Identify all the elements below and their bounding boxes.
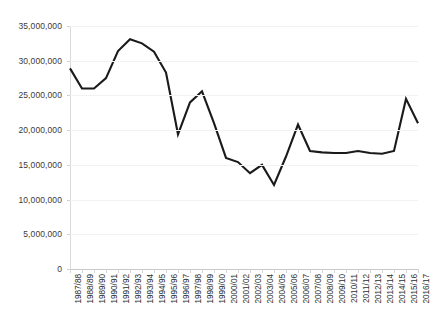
x-tick-label: 2003/04 xyxy=(266,274,275,304)
x-tick-mark xyxy=(130,269,131,273)
x-tick-mark xyxy=(214,269,215,273)
gridline xyxy=(70,95,418,96)
x-tick-label: 2015/16 xyxy=(410,274,419,304)
x-tick-label: 2013/14 xyxy=(386,274,395,304)
line-chart: 05,000,00010,000,00015,000,00020,000,000… xyxy=(0,0,434,331)
x-tick-label: 1999/00 xyxy=(218,274,227,304)
y-axis: 05,000,00010,000,00015,000,00020,000,000… xyxy=(0,0,66,331)
y-tick-label: 10,000,000 xyxy=(18,195,62,205)
y-tick-label: 0 xyxy=(57,264,62,274)
gridline xyxy=(70,165,418,166)
x-tick-mark xyxy=(262,269,263,273)
x-tick-label: 2005/06 xyxy=(290,274,299,304)
x-tick-mark xyxy=(106,269,107,273)
y-tick-mark xyxy=(67,165,70,166)
x-tick-label: 1992/93 xyxy=(134,274,143,304)
x-tick-label: 2000/01 xyxy=(230,274,239,304)
x-tick-label: 1993/94 xyxy=(146,274,155,304)
x-tick-label: 2010/11 xyxy=(350,274,359,303)
y-tick-mark xyxy=(67,200,70,201)
x-tick-label: 1988/89 xyxy=(86,274,95,304)
y-tick-mark xyxy=(67,130,70,131)
y-tick-mark xyxy=(67,26,70,27)
x-tick-label: 1989/90 xyxy=(98,274,107,304)
x-tick-mark xyxy=(82,269,83,273)
x-tick-label: 1996/97 xyxy=(182,274,191,304)
x-tick-mark xyxy=(166,269,167,273)
x-tick-mark xyxy=(370,269,371,273)
y-tick-mark xyxy=(67,95,70,96)
x-tick-mark xyxy=(226,269,227,273)
y-tick-mark xyxy=(67,61,70,62)
gridline xyxy=(70,200,418,201)
x-tick-label: 2011/12 xyxy=(362,274,371,303)
x-tick-mark xyxy=(250,269,251,273)
x-tick-mark xyxy=(70,269,71,273)
x-tick-mark xyxy=(418,269,419,273)
gridline xyxy=(70,130,418,131)
x-tick-mark xyxy=(406,269,407,273)
x-tick-label: 2004/05 xyxy=(278,274,287,304)
y-tick-label: 25,000,000 xyxy=(18,90,62,100)
x-tick-mark xyxy=(346,269,347,273)
x-tick-mark xyxy=(142,269,143,273)
series-line-svg xyxy=(70,26,418,269)
x-tick-mark xyxy=(238,269,239,273)
x-tick-mark xyxy=(286,269,287,273)
x-tick-label: 1994/95 xyxy=(158,274,167,304)
x-axis-line xyxy=(70,269,419,270)
x-tick-label: 1998/99 xyxy=(206,274,215,304)
x-tick-label: 2002/03 xyxy=(254,274,263,304)
x-tick-label: 1997/98 xyxy=(194,274,203,304)
x-tick-label: 2001/02 xyxy=(242,274,251,304)
x-tick-mark xyxy=(358,269,359,273)
gridline xyxy=(70,26,418,27)
y-tick-label: 20,000,000 xyxy=(18,125,62,135)
x-tick-mark xyxy=(394,269,395,273)
x-tick-label: 2016/17 xyxy=(422,274,431,304)
x-tick-label: 2014/15 xyxy=(398,274,407,304)
y-tick-label: 5,000,000 xyxy=(23,229,62,239)
gridline xyxy=(70,234,418,235)
x-tick-mark xyxy=(274,269,275,273)
x-tick-label: 1995/96 xyxy=(170,274,179,304)
y-tick-mark xyxy=(67,234,70,235)
x-axis: 1987/881988/891989/901990/911991/921992/… xyxy=(70,274,422,331)
x-tick-label: 1987/88 xyxy=(74,274,83,304)
y-tick-label: 35,000,000 xyxy=(18,21,62,31)
x-tick-mark xyxy=(118,269,119,273)
x-tick-mark xyxy=(334,269,335,273)
x-tick-mark xyxy=(94,269,95,273)
x-tick-mark xyxy=(178,269,179,273)
x-tick-label: 2007/08 xyxy=(314,274,323,304)
x-tick-mark xyxy=(298,269,299,273)
gridline xyxy=(70,61,418,62)
y-tick-label: 30,000,000 xyxy=(18,56,62,66)
x-tick-label: 2006/07 xyxy=(302,274,311,304)
x-tick-mark xyxy=(190,269,191,273)
x-tick-mark xyxy=(202,269,203,273)
x-tick-mark xyxy=(382,269,383,273)
x-tick-mark xyxy=(154,269,155,273)
plot-area xyxy=(70,26,418,269)
x-tick-label: 2009/10 xyxy=(338,274,347,304)
x-tick-label: 1991/92 xyxy=(122,274,131,304)
y-tick-label: 15,000,000 xyxy=(18,160,62,170)
x-tick-label: 2008/09 xyxy=(326,274,335,304)
x-tick-mark xyxy=(310,269,311,273)
x-tick-label: 1990/91 xyxy=(110,274,119,304)
x-tick-mark xyxy=(322,269,323,273)
x-tick-label: 2012/13 xyxy=(374,274,383,304)
